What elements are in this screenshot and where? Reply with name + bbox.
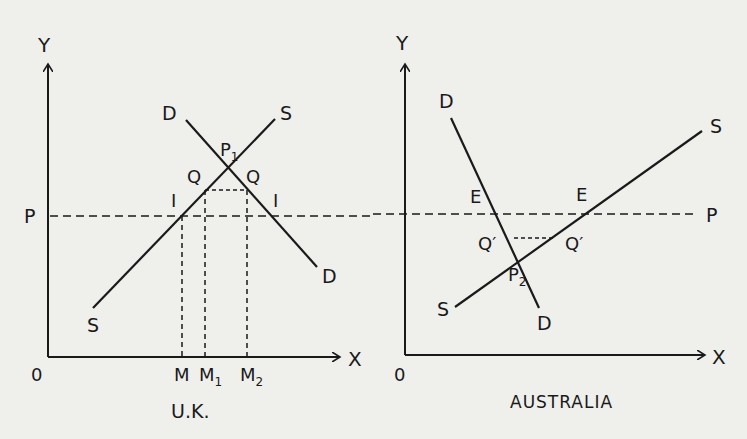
- aus-supply-label-top: S: [710, 115, 722, 137]
- uk-quota-label-right: Q: [246, 166, 260, 187]
- aus-quota-label-right: Q′: [565, 233, 583, 254]
- aus-price-label: P: [706, 204, 717, 226]
- uk-supply-curve: [93, 119, 275, 308]
- aus-y-label: Y: [395, 31, 409, 55]
- uk-import-label-left: I: [171, 190, 176, 211]
- aus-supply-curve: [455, 131, 702, 307]
- uk-demand-label-bottom: D: [322, 265, 337, 287]
- aus-demand-label-bottom: D: [537, 312, 552, 334]
- aus-panel-title: AUSTRALIA: [510, 392, 613, 412]
- uk-tick-m: M: [174, 364, 190, 385]
- uk-tick-m1: M1: [199, 364, 222, 389]
- uk-x-label: X: [348, 347, 362, 371]
- aus-origin-label: 0: [394, 364, 405, 385]
- uk-supply-label-top: S: [280, 102, 292, 124]
- aus-demand-label-top: D: [439, 90, 454, 112]
- uk-origin-label: 0: [31, 364, 42, 385]
- aus-quota-label-left: Q′: [478, 233, 496, 254]
- aus-export-label-left: E: [470, 186, 481, 207]
- uk-demand-label-top: D: [162, 102, 177, 124]
- uk-price-label: P: [24, 205, 35, 227]
- uk-panel-title: U.K.: [171, 400, 209, 422]
- aus-equilibrium-label: P2: [508, 264, 527, 289]
- uk-tick-m2: M2: [240, 364, 263, 389]
- uk-import-label-right: I: [273, 190, 278, 211]
- uk-quota-label-left: Q: [187, 166, 201, 187]
- uk-panel: Y X 0 P D D S S P1 Q Q I I M M1 M2 U.K.: [24, 33, 373, 422]
- aus-supply-label-bottom: S: [437, 298, 449, 320]
- aus-x-label: X: [712, 345, 726, 369]
- uk-y-label: Y: [37, 33, 51, 57]
- australia-panel: Y X 0 P D D S S E E Q′ Q′ P2 AUSTRALIA: [373, 31, 726, 412]
- aus-export-label-right: E: [576, 184, 587, 205]
- uk-supply-label-bottom: S: [87, 314, 99, 336]
- trade-diagram: Y X 0 P D D S S P1 Q Q I I M M1 M2 U.K. …: [0, 0, 747, 439]
